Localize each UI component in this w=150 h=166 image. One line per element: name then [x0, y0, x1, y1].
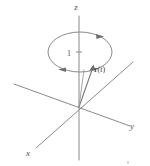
vector-function-figure: z y x 1 r(t): [0, 0, 150, 166]
y-axis-label: y: [129, 121, 134, 131]
position-vector-label-paren-close: ): [102, 65, 105, 74]
position-vector-line: [79, 67, 93, 107]
x-axis-line: [36, 62, 133, 148]
z-axis-label: z: [73, 2, 78, 12]
y-axis-line: [14, 84, 130, 126]
scan-speck: [127, 161, 129, 164]
figure-canvas: z y x 1 r(t): [0, 0, 150, 166]
z-axis-unit-tick-label: 1: [67, 49, 71, 58]
x-axis-label: x: [25, 148, 30, 158]
position-vector-label: r(t): [94, 65, 105, 74]
position-vector-label-text: r(t): [94, 65, 105, 74]
